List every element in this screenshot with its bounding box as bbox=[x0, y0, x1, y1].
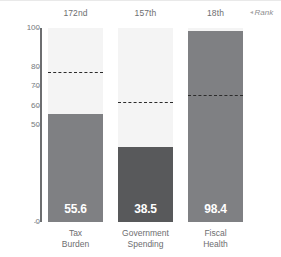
bar-column-tax-burden[interactable]: 55.6 bbox=[48, 28, 103, 222]
y-tick-mark-70 bbox=[34, 86, 39, 87]
bar-value-government-spending: 38.5 bbox=[118, 202, 173, 216]
y-tick-mark-50 bbox=[34, 125, 39, 126]
y-tick-mark-0 bbox=[34, 222, 39, 223]
reference-line-tax-burden bbox=[48, 72, 103, 73]
bar-government-spending[interactable]: 38.5 bbox=[118, 147, 173, 222]
x-axis-label-government-spending: Government Spending bbox=[106, 228, 185, 249]
y-tick-mark-80 bbox=[34, 67, 39, 68]
x-axis-label-tax-burden: Tax Burden bbox=[36, 228, 115, 249]
reference-line-fiscal-health bbox=[188, 95, 243, 96]
y-tick-mark-100 bbox=[34, 28, 39, 29]
bar-column-government-spending[interactable]: 38.5 bbox=[118, 28, 173, 222]
bar-column-fiscal-health[interactable]: 98.4 bbox=[188, 28, 243, 222]
reference-line-government-spending bbox=[118, 102, 173, 103]
economic-freedom-bar-chart: 172nd 157th 18th ◂Rank 100807060500 55.6… bbox=[0, 0, 281, 257]
bar-value-fiscal-health: 98.4 bbox=[188, 202, 243, 216]
bar-tax-burden[interactable]: 55.6 bbox=[48, 114, 103, 222]
y-axis-spine bbox=[40, 28, 42, 222]
plot-area: 100807060500 55.638.598.4 Tax BurdenGove… bbox=[0, 0, 281, 257]
bar-value-tax-burden: 55.6 bbox=[48, 202, 103, 216]
bar-fiscal-health[interactable]: 98.4 bbox=[188, 31, 243, 222]
y-tick-mark-60 bbox=[34, 106, 39, 107]
x-axis-label-fiscal-health: Fiscal Health bbox=[176, 228, 255, 249]
